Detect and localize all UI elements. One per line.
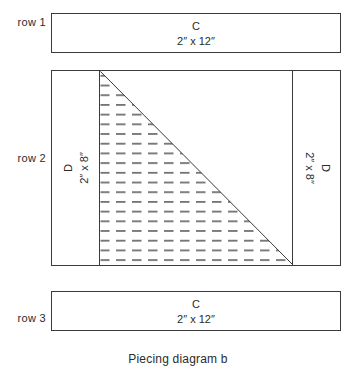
row-2-right-piece-size: 2″ x 8″	[301, 152, 316, 184]
piecing-diagram: row 1 C 2″ x 12″ row 2 D 2″ x 8″	[0, 0, 356, 376]
row-label-row-2: row 2	[2, 152, 46, 164]
triangle-hatch-graphic	[100, 71, 293, 265]
row-2-block: D 2″ x 8″	[51, 70, 341, 266]
row-1-piece-c: C 2″ x 12″	[51, 13, 341, 53]
row-2-left-piece-d: D 2″ x 8″	[52, 71, 99, 265]
row-2-left-piece-letter: D	[60, 152, 75, 184]
row-3-piece-c: C 2″ x 12″	[51, 291, 341, 331]
row-label-row-3: row 3	[2, 312, 46, 324]
row-3-piece-letter: C	[52, 297, 340, 311]
row-2-left-piece-label: D 2″ x 8″	[60, 152, 91, 184]
row-2-left-piece-size: 2″ x 8″	[76, 152, 91, 184]
row-2-right-piece-letter: D	[317, 152, 332, 184]
row-2-right-piece-d: D 2″ x 8″	[293, 71, 340, 265]
row-label-row-1: row 1	[2, 16, 46, 28]
row-1-piece-size: 2″ x 12″	[52, 34, 340, 48]
row-1-piece-letter: C	[52, 19, 340, 33]
diagram-caption: Piecing diagram b	[0, 352, 356, 366]
row-2-right-piece-label: D 2″ x 8″	[301, 152, 332, 184]
row-2-shaded-triangle	[100, 71, 293, 265]
row-3-piece-size: 2″ x 12″	[52, 312, 340, 326]
row-2-divider-left	[99, 71, 100, 265]
